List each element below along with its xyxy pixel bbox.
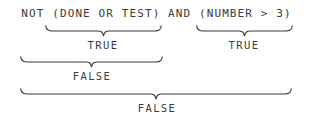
brace-label-group-4: FALSE	[97, 102, 217, 114]
brace-curve-icon	[196, 25, 293, 36]
brace-group-4	[20, 88, 292, 99]
brace-group-1	[45, 25, 162, 36]
expression-text: NOT (DONE OR TEST) AND (NUMBER > 3)	[0, 7, 313, 21]
brace-curve-icon	[20, 88, 292, 99]
brace-label-group-3: FALSE	[32, 70, 152, 82]
brace-group-3	[20, 56, 163, 67]
boolean-expression-diagram: NOT (DONE OR TEST) AND (NUMBER > 3) TRUE…	[0, 0, 313, 126]
brace-group-2	[196, 25, 293, 36]
brace-label-group-2: TRUE	[184, 39, 304, 51]
brace-curve-icon	[45, 25, 162, 36]
brace-curve-icon	[20, 56, 163, 67]
brace-label-group-1: TRUE	[43, 39, 163, 51]
